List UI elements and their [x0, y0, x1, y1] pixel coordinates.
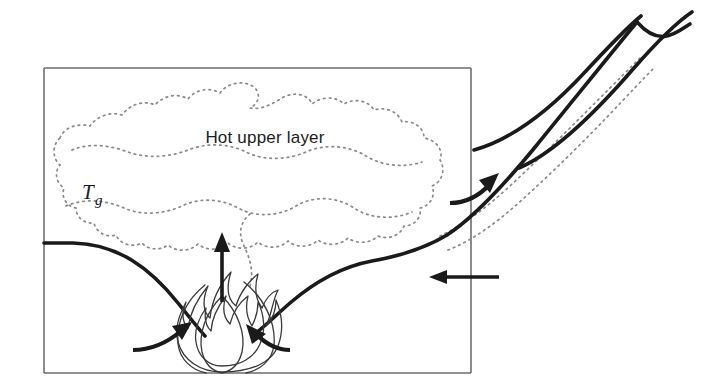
- diagram-background: [0, 0, 726, 389]
- hot-upper-layer-label: Hot upper layer: [205, 128, 324, 147]
- compartment-fire-diagram: Hot upper layer T g: [0, 0, 726, 389]
- gas-temperature-subscript: g: [95, 192, 103, 208]
- fire-diagram-figure: Hot upper layer T g: [0, 0, 726, 389]
- gas-temperature-symbol: T: [82, 180, 95, 204]
